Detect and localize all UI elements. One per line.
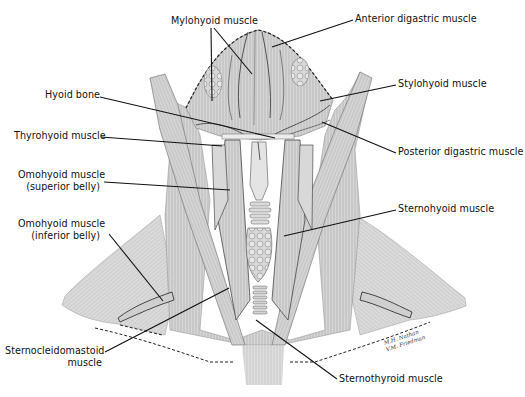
label-text: (superior belly) <box>18 181 100 193</box>
larynx-trachea <box>246 142 272 314</box>
label-posterior-digastric: Posterior digastric muscle <box>398 146 523 158</box>
lower-neck <box>242 345 284 385</box>
label-text: (inferior belly) <box>18 230 100 242</box>
label-text: Hyoid bone <box>45 89 100 101</box>
label-text: muscle <box>5 357 102 369</box>
neck-muscle-diagram: Mylohyoid muscleAnterior digastric muscl… <box>0 0 525 397</box>
submandibular-region <box>186 30 333 140</box>
label-text: Thyrohyoid muscle <box>14 130 106 142</box>
label-sternothyroid: Sternothyroid muscle <box>339 373 443 385</box>
label-text: Sternothyroid muscle <box>339 373 443 385</box>
label-mylohyoid: Mylohyoid muscle <box>171 15 258 27</box>
label-thyrohyoid: Thyrohyoid muscle <box>14 130 106 142</box>
label-hyoid-bone: Hyoid bone <box>45 89 100 101</box>
label-stylohyoid: Stylohyoid muscle <box>398 78 487 90</box>
label-text: Posterior digastric muscle <box>398 146 523 158</box>
neck-illustration <box>0 0 525 397</box>
label-text: Omohyoid muscle <box>18 169 100 181</box>
label-text: Omohyoid muscle <box>18 218 100 230</box>
leader-thyrohyoid <box>101 137 222 146</box>
label-omohyoid-inferior: Omohyoid muscle(inferior belly) <box>18 218 100 242</box>
label-sternocleidomastoid: Sternocleidomastoidmuscle <box>5 345 102 369</box>
label-omohyoid-superior: Omohyoid muscle(superior belly) <box>18 169 100 193</box>
label-text: Sternocleidomastoid <box>5 345 102 357</box>
label-text: Stylohyoid muscle <box>398 78 487 90</box>
label-text: Sternohyoid muscle <box>398 203 494 215</box>
label-anterior-digastric: Anterior digastric muscle <box>355 13 477 25</box>
label-text: Anterior digastric muscle <box>355 13 477 25</box>
label-sternohyoid: Sternohyoid muscle <box>398 203 494 215</box>
label-text: Mylohyoid muscle <box>171 15 258 27</box>
leader-anterior-digastric <box>272 20 353 47</box>
